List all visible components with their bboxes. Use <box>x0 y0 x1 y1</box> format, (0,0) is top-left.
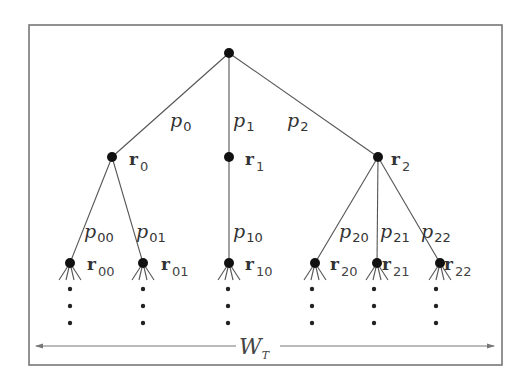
diagram-frame <box>29 25 502 365</box>
edge-root-r0 <box>112 53 229 157</box>
edge-label-p00: p00 <box>84 220 114 245</box>
tree-diagram: p0 p1 p2 r0 r1 r2 p00 p01 p10 p20 p21 p2… <box>0 0 528 378</box>
edge-r2-r21 <box>377 157 378 263</box>
node-r01 <box>138 258 148 268</box>
node-label-r01: r01 <box>161 254 189 279</box>
edge-root-r2 <box>229 53 378 157</box>
node-label-r10: r10 <box>245 254 273 279</box>
edge-label-p01: p01 <box>136 220 166 245</box>
edge-label-p20: p20 <box>339 220 369 245</box>
edge-label-p0: p0 <box>170 109 191 134</box>
edge-label-p22: p22 <box>421 220 451 245</box>
continuation-dots <box>68 287 438 325</box>
root-node <box>224 48 234 58</box>
level2-edge-labels: p00 p01 p10 p20 p21 p22 <box>84 220 451 245</box>
edge-r0-r00 <box>70 157 112 263</box>
arrow-right-head-icon <box>487 344 495 349</box>
node-r1 <box>224 152 234 162</box>
width-arrow: WT <box>35 334 495 362</box>
edge-r2-r20 <box>315 157 378 263</box>
node-label-r1: r1 <box>245 149 264 174</box>
node-r0 <box>107 152 117 162</box>
node-label-r2: r2 <box>391 149 410 174</box>
node-r2 <box>373 152 383 162</box>
edge-label-p1: p1 <box>233 109 254 134</box>
edge-r0-r01 <box>112 157 143 263</box>
level1-node-labels: r0 r1 r2 <box>129 149 410 174</box>
node-r10 <box>224 258 234 268</box>
arrow-left-head-icon <box>35 344 43 349</box>
node-label-r20: r20 <box>330 254 358 279</box>
node-label-r21: r21 <box>382 254 410 279</box>
level1-edges <box>112 53 378 157</box>
edge-label-p10: p10 <box>233 220 263 245</box>
level1-edge-labels: p0 p1 p2 <box>170 109 308 134</box>
edge-label-p2: p2 <box>287 109 308 134</box>
node-label-r0: r0 <box>129 149 148 174</box>
width-label: WT <box>239 334 271 362</box>
node-r00 <box>65 258 75 268</box>
node-label-r00: r00 <box>87 254 115 279</box>
edge-label-p21: p21 <box>380 220 410 245</box>
node-r21 <box>372 258 382 268</box>
node-r20 <box>310 258 320 268</box>
